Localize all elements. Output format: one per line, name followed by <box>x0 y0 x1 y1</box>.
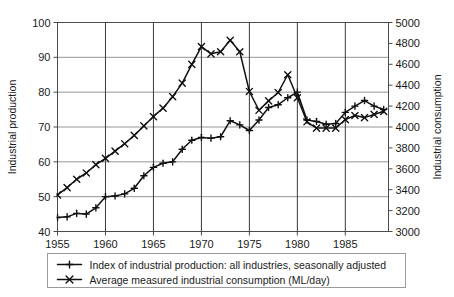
left-axis-tick-label: 60 <box>38 156 50 168</box>
right-axis-tick-label: 4000 <box>396 121 420 133</box>
x-axis-tick-label: 1965 <box>141 238 165 250</box>
x-axis-tick-label: 1975 <box>237 238 261 250</box>
legend-label: Index of industrial production: all indu… <box>90 259 387 271</box>
right-axis-tick-label: 3600 <box>396 163 420 175</box>
right-axis-tick-label: 4200 <box>396 100 420 112</box>
left-axis-tick-label: 80 <box>38 86 50 98</box>
left-axis-tick-label: 100 <box>32 17 50 29</box>
left-axis-tick-label: 50 <box>38 191 50 203</box>
right-axis-tick-label: 5000 <box>396 17 420 29</box>
right-axis-tick-label: 4800 <box>396 37 420 49</box>
industrial-production-consumption-chart: 4050607080901003000320034003600380040004… <box>0 0 454 297</box>
right-axis-tick-label: 3200 <box>396 205 420 217</box>
right-axis-tick-label: 3000 <box>396 226 420 238</box>
x-axis-tick-label: 1985 <box>333 238 357 250</box>
right-axis-tick-label: 4400 <box>396 79 420 91</box>
left-axis-tick-label: 40 <box>38 226 50 238</box>
right-axis-title: Industrial consumption <box>431 74 443 179</box>
legend-label: Average measured industrial consumption … <box>90 274 330 286</box>
right-axis-tick-label: 3400 <box>396 184 420 196</box>
chart-legend: Index of industrial production: all indu… <box>48 254 406 288</box>
x-axis-tick-label: 1980 <box>285 238 309 250</box>
left-axis-tick-label: 70 <box>38 121 50 133</box>
left-axis-title: Industrial production <box>6 80 18 175</box>
right-axis-tick-label: 4600 <box>396 58 420 70</box>
x-axis-tick-label: 1955 <box>45 238 69 250</box>
right-axis-tick-label: 3800 <box>396 142 420 154</box>
x-axis-tick-label: 1970 <box>189 238 213 250</box>
x-axis-tick-label: 1960 <box>93 238 117 250</box>
left-axis-tick-label: 90 <box>38 51 50 63</box>
